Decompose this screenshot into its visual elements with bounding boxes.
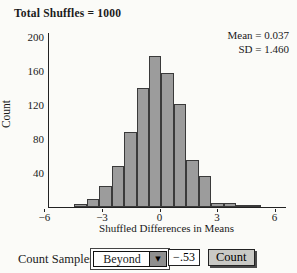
histogram-bar [87, 199, 99, 207]
histogram-bar [161, 73, 173, 207]
count-samples-controls: Count Samples Beyond ▼ Count [0, 248, 297, 272]
histogram-bar [211, 203, 223, 207]
histogram-bar [236, 205, 248, 207]
count-button[interactable]: Count [208, 249, 255, 266]
x-tick-label: −3 [90, 211, 114, 223]
y-tick-label: 80 [0, 133, 44, 145]
y-tick-label: 200 [0, 31, 44, 43]
threshold-input[interactable] [168, 249, 200, 266]
histogram-bar [124, 132, 136, 207]
x-axis-title: Shuffled Differences in Means [48, 222, 285, 234]
total-shuffles-title: Total Shuffles = 1000 [14, 7, 121, 19]
simulation-histogram-window: Total Shuffles = 1000 Mean = 0.037 SD = … [0, 0, 297, 273]
chevron-down-icon: ▼ [155, 256, 160, 263]
x-tick-label: 3 [205, 211, 229, 223]
histogram-bar [199, 176, 211, 207]
histogram-bar [224, 203, 236, 207]
x-tick-label: −6 [32, 211, 56, 223]
histogram-bar [174, 104, 186, 207]
histogram-bar [137, 88, 149, 207]
histogram-bar [249, 205, 261, 207]
histogram-bar [186, 160, 198, 207]
plot-area [48, 33, 286, 208]
count-samples-label: Count Samples [18, 252, 94, 267]
dropdown-arrow-button[interactable]: ▼ [149, 252, 166, 266]
histogram-bar [99, 186, 111, 207]
y-tick-label: 160 [0, 65, 44, 77]
y-tick-label: 120 [0, 99, 44, 111]
x-tick-label: 6 [263, 211, 287, 223]
beyond-dropdown[interactable]: Beyond ▼ [90, 248, 170, 270]
histogram-bar [74, 204, 86, 207]
beyond-dropdown-inner[interactable]: Beyond ▼ [93, 251, 167, 267]
x-tick-label: 0 [148, 211, 172, 223]
histogram-bar [112, 166, 124, 207]
y-tick-label: 40 [0, 167, 44, 179]
histogram-bar [149, 56, 161, 207]
beyond-dropdown-value: Beyond [94, 252, 149, 266]
